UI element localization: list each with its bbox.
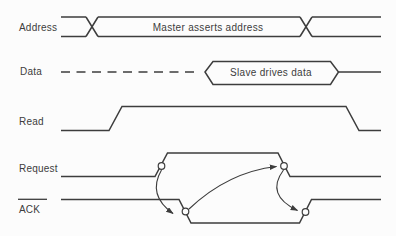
timing-diagram-canvas: Address Master asserts address Data Slav… [0,0,396,236]
signal-row-address: Address Master asserts address [19,17,381,37]
node-ack-rise [302,209,309,216]
ack-waveform [61,200,381,224]
signal-label-request: Request [19,163,58,174]
node-request-fall [281,163,288,170]
address-bus-crossover-right [300,17,312,37]
address-bus-left-segment [61,17,86,37]
address-bus-right-segment [312,17,381,37]
arrow-request-rise-to-ack-fall [156,170,173,214]
handshake-arrows [156,167,297,214]
node-ack-fall [182,208,189,215]
signal-row-read: Read [19,107,381,131]
signal-label-ack: ACK [19,204,40,215]
signal-label-read: Read [19,116,44,127]
address-annotation: Master asserts address [153,22,264,33]
data-annotation: Slave drives data [230,67,312,78]
signal-row-data: Data Slave drives data [20,62,381,85]
node-request-rise [158,163,165,170]
read-waveform [61,107,381,131]
timing-diagram-figure: Address Master asserts address Data Slav… [0,0,396,236]
signal-row-request: Request [19,153,381,177]
request-waveform [61,153,381,177]
signal-label-address: Address [19,22,57,33]
address-bus-crossover-left [86,17,98,37]
signal-label-data: Data [20,66,42,77]
signal-row-ack: ACK [18,199,381,223]
arrow-ack-fall-to-request-fall [189,167,277,210]
